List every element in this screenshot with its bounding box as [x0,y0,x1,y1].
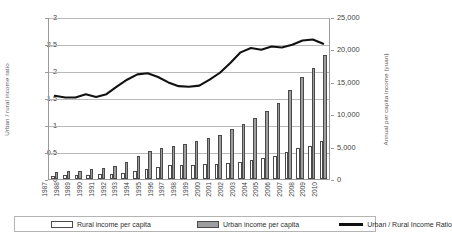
x-axis-tick-label: 2010 [318,181,330,215]
y-axis-right-tick-mark [331,50,334,51]
y-axis-right-title: Annual per capita income (yuan) [382,45,389,155]
ratio-line-series [49,18,329,179]
legend-label-rural: Rural income per capita [77,221,151,228]
legend-swatch-rural-icon [51,221,73,228]
y-axis-right-tick-label: 20,000 [337,45,360,54]
legend-swatch-line-icon [339,223,363,226]
y-axis-right-tick-mark [331,180,334,181]
plot-area [48,18,330,180]
y-axis-right-tick-label: 25,000 [337,13,360,22]
y-axis-right-tick-label: 15,000 [337,78,360,87]
chart-legend: Rural income per capita Urban income per… [14,216,376,232]
y-axis-right-tick-label: 10,000 [337,110,360,119]
y-axis-right-tick-mark [331,18,334,19]
legend-label-ratio: Urban / Rural Income Ratio [367,221,452,228]
y-axis-right-tick-mark [331,148,334,149]
y-axis-right-tick-mark [331,83,334,84]
legend-item-urban: Urban income per capita [197,221,299,228]
y-axis-right-tick-label: 0 [337,175,341,184]
legend-swatch-urban-icon [197,221,219,228]
legend-label-urban: Urban income per capita [223,221,299,228]
legend-item-ratio: Urban / Rural Income Ratio [339,221,452,228]
legend-item-rural: Rural income per capita [51,221,151,228]
x-axis-labels: 1987198819891990199119921993199419951996… [48,181,330,215]
y-axis-right-tick-mark [331,115,334,116]
y-axis-right-tick-label: 5,000 [337,143,356,152]
y-axis-left-title: Urban / rural income ratio [3,50,10,150]
